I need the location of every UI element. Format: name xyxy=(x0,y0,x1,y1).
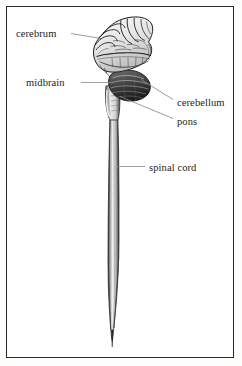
label-cerebrum: cerebrum xyxy=(16,29,56,40)
spinal-cord-group xyxy=(108,118,119,347)
label-spinal-cord: spinal cord xyxy=(149,163,196,174)
anatomical-figure: cerebrum midbrain cerebellum pons spinal… xyxy=(0,0,242,366)
label-cerebellum: cerebellum xyxy=(177,98,225,109)
leader-pons xyxy=(120,97,173,119)
label-midbrain: midbrain xyxy=(26,78,65,89)
leader-cerebrum xyxy=(71,34,101,39)
cerebrum-group xyxy=(93,17,152,77)
label-pons: pons xyxy=(177,117,197,128)
brain-illustration xyxy=(0,0,242,366)
